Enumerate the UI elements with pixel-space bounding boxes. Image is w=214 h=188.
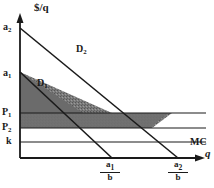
x-axis-arrowhead bbox=[195, 155, 205, 162]
cost-label-k: k bbox=[6, 136, 12, 146]
y-axis-arrowhead bbox=[17, 13, 24, 23]
price-label-p1: P1 bbox=[2, 107, 12, 117]
x-tick-label-a1-over-b: a1 b bbox=[100, 160, 120, 182]
x-tick-a2-denominator: b bbox=[168, 173, 188, 182]
curve-label-d2: D2 bbox=[76, 44, 87, 54]
y-intercept-label-a2: a2 bbox=[3, 22, 11, 32]
price-label-p2: P2 bbox=[2, 122, 12, 132]
x-axis-title: q bbox=[205, 148, 211, 159]
x-tick-label-a2-over-b: a2 b bbox=[168, 160, 188, 182]
economics-demand-chart: $/q q a2 a1 P1 P2 k D1 D2 MC a1 b a2 b bbox=[0, 0, 214, 188]
shaded-price-band bbox=[20, 113, 172, 128]
curve-label-mc: MC bbox=[190, 137, 207, 147]
y-intercept-label-a1: a1 bbox=[3, 68, 11, 78]
x-tick-a1-numerator: a1 bbox=[100, 160, 120, 173]
x-tick-a1-denominator: b bbox=[100, 173, 120, 182]
x-tick-a2-numerator: a2 bbox=[168, 160, 188, 173]
curve-label-d1: D1 bbox=[37, 78, 48, 88]
y-axis-title: $/q bbox=[34, 2, 49, 13]
